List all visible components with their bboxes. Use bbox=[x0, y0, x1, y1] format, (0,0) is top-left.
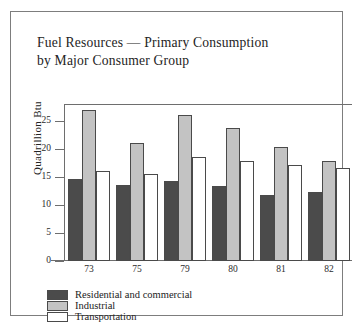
bar[interactable] bbox=[322, 161, 336, 261]
legend-label: Residential and commercial bbox=[75, 289, 192, 300]
legend-item[interactable]: Transportation bbox=[47, 311, 192, 322]
bar[interactable] bbox=[144, 174, 158, 261]
chart-title-line-2: by Major Consumer Group bbox=[37, 52, 337, 70]
bar[interactable] bbox=[212, 186, 226, 261]
y-axis-tick-label: 15 bbox=[11, 171, 51, 181]
legend-swatch-icon bbox=[47, 301, 68, 311]
y-axis-tick-label: 5 bbox=[11, 227, 51, 237]
bar[interactable] bbox=[82, 110, 96, 261]
y-axis-tick-label: 20 bbox=[11, 143, 51, 153]
y-axis-tick-label: 25 bbox=[11, 115, 51, 125]
y-axis-tick bbox=[55, 233, 64, 234]
bar[interactable] bbox=[336, 168, 350, 261]
legend: Residential and commercialIndustrialTran… bbox=[47, 289, 192, 322]
y-axis-tick bbox=[55, 205, 64, 206]
y-axis-tick bbox=[55, 261, 64, 262]
bar[interactable] bbox=[240, 161, 254, 261]
bar-group bbox=[164, 104, 206, 261]
legend-swatch-icon bbox=[47, 312, 68, 322]
bar[interactable] bbox=[130, 143, 144, 261]
bar-group bbox=[68, 104, 110, 261]
bar[interactable] bbox=[116, 185, 130, 261]
bar[interactable] bbox=[226, 128, 240, 261]
chart-title-line-1: Fuel Resources — Primary Consumption bbox=[37, 34, 337, 52]
bar[interactable] bbox=[308, 192, 322, 261]
figure-frame: Fuel Resources — Primary Consumption by … bbox=[10, 11, 343, 316]
y-axis-tick bbox=[55, 177, 64, 178]
x-axis-tick-label: 82 bbox=[309, 264, 349, 274]
bar-group bbox=[308, 104, 350, 261]
bar[interactable] bbox=[164, 181, 178, 261]
legend-item[interactable]: Industrial bbox=[47, 300, 192, 311]
bar-group bbox=[212, 104, 254, 261]
x-axis-tick-label: 75 bbox=[117, 264, 157, 274]
bar[interactable] bbox=[274, 147, 288, 261]
y-axis-tick bbox=[55, 149, 64, 150]
legend-swatch-icon bbox=[47, 290, 68, 300]
x-axis-tick-label: 73 bbox=[69, 264, 109, 274]
y-axis-tick bbox=[55, 121, 64, 122]
bar[interactable] bbox=[96, 171, 110, 261]
bar[interactable] bbox=[260, 195, 274, 261]
bar[interactable] bbox=[288, 165, 302, 261]
chart-title: Fuel Resources — Primary Consumption by … bbox=[37, 34, 337, 70]
x-axis-tick-label: 80 bbox=[213, 264, 253, 274]
y-axis-title: Quadrillion Btu bbox=[31, 68, 43, 208]
bar-series-layer bbox=[64, 104, 352, 261]
legend-label: Industrial bbox=[75, 300, 115, 311]
legend-item[interactable]: Residential and commercial bbox=[47, 289, 192, 300]
bar[interactable] bbox=[68, 179, 82, 261]
bar-group bbox=[260, 104, 302, 261]
y-axis-tick-label: 0 bbox=[11, 255, 51, 265]
legend-label: Transportation bbox=[75, 311, 136, 322]
bar[interactable] bbox=[178, 115, 192, 261]
x-axis-tick-label: 79 bbox=[165, 264, 205, 274]
x-axis-tick-label: 81 bbox=[261, 264, 301, 274]
y-axis-tick-label: 10 bbox=[11, 199, 51, 209]
bar[interactable] bbox=[192, 157, 206, 261]
bar-group bbox=[116, 104, 158, 261]
